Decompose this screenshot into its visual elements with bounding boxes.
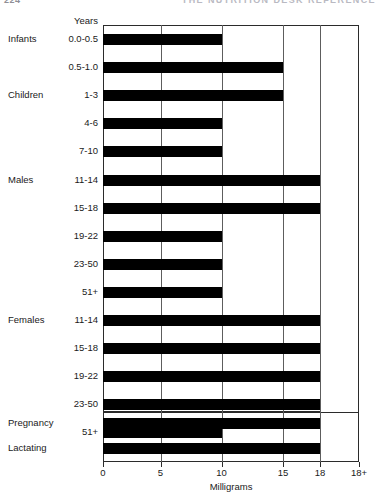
- bar-row: [103, 90, 283, 101]
- age-label: 51+: [38, 286, 98, 297]
- x-tick-label: 10: [216, 467, 227, 478]
- age-label: 23-50: [38, 398, 98, 409]
- x-axis-title: Milligrams: [103, 481, 359, 492]
- x-tick-label: 15: [278, 467, 289, 478]
- age-label: 19-22: [38, 370, 98, 381]
- bar-row: [103, 175, 320, 186]
- bar-row: [103, 34, 222, 45]
- gridline-18: [320, 25, 321, 462]
- bar-row: [103, 343, 320, 354]
- age-label: 4-6: [38, 117, 98, 128]
- bar-row: [103, 118, 222, 129]
- age-label: 11-14: [38, 174, 98, 185]
- x-tick-label: 0: [100, 467, 105, 478]
- bar-row: [103, 62, 283, 73]
- age-label: 15-18: [38, 342, 98, 353]
- x-tick-label: 18+: [351, 467, 367, 478]
- bar-row: [103, 443, 320, 454]
- plot-frame-right-edge: [358, 25, 359, 462]
- age-label: 0.5-1.0: [38, 61, 98, 72]
- age-label: 23-50: [38, 258, 98, 269]
- bar-row: [103, 146, 222, 157]
- iron-rda-bar-chart: Years Infants0.0-0.50.5-1.0Children1-34-…: [0, 0, 382, 502]
- bar-row: [103, 231, 222, 242]
- age-label: 15-18: [38, 202, 98, 213]
- years-axis-caption: Years: [38, 15, 98, 26]
- x-tick-label: 5: [158, 467, 163, 478]
- age-label: 1-3: [38, 89, 98, 100]
- group-label-lactating: Lactating: [8, 442, 66, 453]
- bar-row: [103, 427, 222, 438]
- plot-frame-extension: [320, 25, 359, 412]
- group-label-pregnancy: Pregnancy: [8, 417, 66, 428]
- bar-row: [103, 203, 320, 214]
- x-tick-label: 18: [315, 467, 326, 478]
- age-label: 19-22: [38, 230, 98, 241]
- bar-row: [103, 259, 222, 270]
- age-label: 51+: [38, 426, 98, 437]
- age-label: 0.0-0.5: [38, 33, 98, 44]
- age-label: 7-10: [38, 145, 98, 156]
- bar-row: [103, 315, 320, 326]
- bar-row: [103, 287, 222, 298]
- bar-row: [103, 418, 320, 429]
- bar-row: [103, 371, 320, 382]
- bar-row: [103, 399, 320, 410]
- age-label: 11-14: [38, 314, 98, 325]
